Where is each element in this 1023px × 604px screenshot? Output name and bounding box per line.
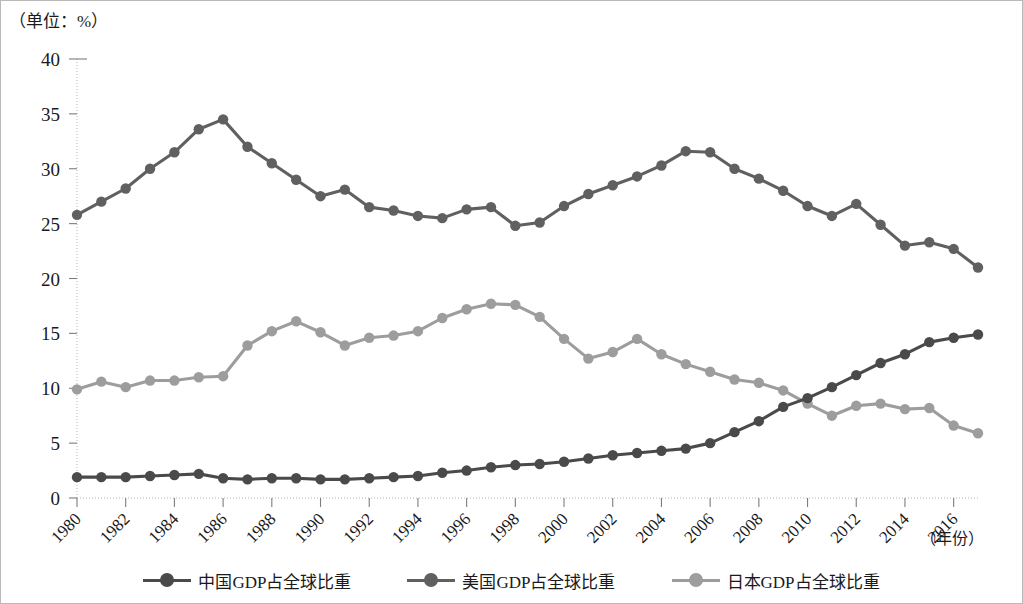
series-line bbox=[77, 119, 978, 267]
series-marker bbox=[948, 244, 958, 254]
series-marker bbox=[656, 349, 666, 359]
series-marker bbox=[461, 304, 471, 314]
chart-page: （单位：%） 0510152025303540 1980198219841986… bbox=[0, 0, 1023, 604]
series-marker bbox=[924, 337, 934, 347]
x-tick-label: 1982 bbox=[96, 509, 133, 546]
series-marker bbox=[875, 398, 885, 408]
series-marker bbox=[413, 211, 423, 221]
series-marker bbox=[121, 183, 131, 193]
series-marker bbox=[973, 262, 983, 272]
series-marker bbox=[145, 471, 155, 481]
y-tick-label: 25 bbox=[41, 214, 60, 235]
series-marker bbox=[169, 147, 179, 157]
x-axis-name-group: （年份） bbox=[920, 530, 984, 547]
series-marker bbox=[315, 327, 325, 337]
series-marker bbox=[729, 374, 739, 384]
series-marker bbox=[681, 146, 691, 156]
series-marker bbox=[194, 124, 204, 134]
legend-item[interactable]: 日本GDP占全球比重 bbox=[672, 568, 880, 593]
series-marker bbox=[315, 474, 325, 484]
series-marker bbox=[827, 211, 837, 221]
series-marker bbox=[437, 213, 447, 223]
series-marker bbox=[632, 171, 642, 181]
series-marker bbox=[388, 472, 398, 482]
series-marker bbox=[267, 158, 277, 168]
x-axis-name: （年份） bbox=[920, 530, 984, 547]
series-line bbox=[77, 304, 978, 434]
series-marker bbox=[583, 453, 593, 463]
legend-swatch-icon bbox=[407, 573, 455, 587]
x-tick-label: 2012 bbox=[827, 509, 864, 546]
x-tick-label: 1988 bbox=[242, 509, 279, 546]
series-marker bbox=[559, 201, 569, 211]
series-marker bbox=[242, 474, 252, 484]
legend-label: 中国GDP占全球比重 bbox=[198, 568, 351, 593]
series-marker bbox=[121, 472, 131, 482]
legend-dot bbox=[424, 573, 438, 587]
series-marker bbox=[754, 173, 764, 183]
x-tick-label: 1984 bbox=[145, 509, 183, 547]
series-marker bbox=[559, 457, 569, 467]
series-marker bbox=[194, 469, 204, 479]
series-marker bbox=[486, 462, 496, 472]
series-marker bbox=[632, 448, 642, 458]
legend-swatch-icon bbox=[143, 573, 191, 587]
legend-item[interactable]: 美国GDP占全球比重 bbox=[407, 568, 615, 593]
series-marker bbox=[486, 202, 496, 212]
series-marker bbox=[242, 142, 252, 152]
series-marker bbox=[340, 340, 350, 350]
series-marker bbox=[729, 164, 739, 174]
series-marker bbox=[486, 299, 496, 309]
x-tick-labels: 1980198219841986198819901992199419961998… bbox=[47, 509, 961, 547]
series-marker bbox=[973, 329, 983, 339]
y-tick-label: 35 bbox=[41, 104, 60, 125]
x-tick-label: 2000 bbox=[534, 509, 571, 546]
legend-dot bbox=[689, 573, 703, 587]
y-tick-labels: 0510152025303540 bbox=[41, 49, 60, 509]
x-tick-label: 2010 bbox=[778, 509, 815, 546]
series-marker bbox=[924, 237, 934, 247]
series-marker bbox=[145, 375, 155, 385]
series-marker bbox=[924, 403, 934, 413]
series-marker bbox=[437, 468, 447, 478]
legend-dot bbox=[160, 573, 174, 587]
x-tick-label: 1992 bbox=[340, 509, 377, 546]
y-tick-label: 10 bbox=[41, 378, 60, 399]
series-marker bbox=[875, 358, 885, 368]
series-marker bbox=[96, 376, 106, 386]
y-tick-label: 0 bbox=[51, 488, 61, 509]
series-marker bbox=[121, 382, 131, 392]
x-tick-label: 1980 bbox=[47, 509, 84, 546]
series-marker bbox=[218, 473, 228, 483]
series-marker bbox=[851, 370, 861, 380]
series-marker bbox=[461, 204, 471, 214]
x-tick-label: 2006 bbox=[680, 509, 717, 546]
series-marker bbox=[534, 312, 544, 322]
series-marker bbox=[388, 205, 398, 215]
series-marker bbox=[827, 382, 837, 392]
x-tick-label: 2008 bbox=[729, 509, 766, 546]
y-tick-label: 30 bbox=[41, 159, 60, 180]
x-tick-label: 1998 bbox=[486, 509, 523, 546]
series-marker bbox=[948, 420, 958, 430]
legend-item[interactable]: 中国GDP占全球比重 bbox=[143, 568, 351, 593]
series-marker bbox=[340, 184, 350, 194]
y-tick-label: 15 bbox=[41, 323, 60, 344]
series-marker bbox=[267, 473, 277, 483]
x-tick-label: 1996 bbox=[437, 509, 474, 546]
series-marker bbox=[608, 347, 618, 357]
legend-swatch-icon bbox=[672, 573, 720, 587]
series-marker bbox=[656, 160, 666, 170]
series-marker bbox=[705, 438, 715, 448]
x-tick-label: 1994 bbox=[388, 509, 426, 547]
series-marker bbox=[72, 384, 82, 394]
series-marker bbox=[437, 313, 447, 323]
series-marker bbox=[583, 353, 593, 363]
series-marker bbox=[96, 472, 106, 482]
series-marker bbox=[510, 460, 520, 470]
series-marker bbox=[242, 340, 252, 350]
legend-label: 美国GDP占全球比重 bbox=[462, 568, 615, 593]
series-marker bbox=[900, 404, 910, 414]
series-marker bbox=[778, 186, 788, 196]
series-marker bbox=[267, 326, 277, 336]
